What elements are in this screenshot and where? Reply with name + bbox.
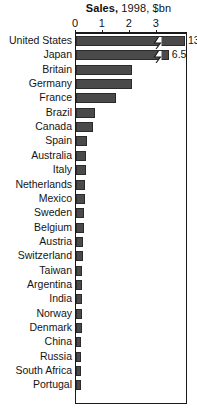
bar: [76, 323, 82, 333]
bar: [76, 366, 81, 376]
category-label: Sweden: [34, 206, 72, 219]
category-label: United States: [9, 34, 72, 47]
x-axis-tick-label: 2: [122, 17, 136, 29]
bar: [76, 294, 82, 304]
category-label: Denmark: [29, 321, 72, 334]
chart-row: Taiwan: [0, 264, 197, 278]
bar: [76, 165, 86, 175]
sales-bar-chart: Sales, 1998, $bn 0123 United States13.2J…: [0, 0, 197, 415]
category-label: China: [45, 335, 72, 348]
chart-row: China: [0, 335, 197, 349]
chart-row: Norway: [0, 307, 197, 321]
bar: [76, 337, 81, 347]
chart-row: Germany: [0, 77, 197, 91]
bar: [76, 50, 169, 60]
bar: [76, 251, 83, 261]
bar: [76, 136, 87, 146]
category-label: Australia: [31, 149, 72, 162]
bar: [76, 79, 132, 89]
category-label: Italy: [53, 163, 72, 176]
chart-row: Canada: [0, 120, 197, 134]
x-axis-tick-label: 0: [68, 17, 82, 29]
category-label: Canada: [35, 120, 72, 133]
chart-row: Russia: [0, 350, 197, 364]
chart-row: Denmark: [0, 321, 197, 335]
chart-row: Argentina: [0, 278, 197, 292]
category-label: Brazil: [46, 106, 72, 119]
category-label: Portugal: [33, 378, 72, 391]
chart-row: Japan6.5: [0, 48, 197, 62]
category-label: South Africa: [15, 364, 72, 377]
bar: [76, 65, 132, 75]
bar: [76, 108, 95, 118]
category-label: Netherlands: [15, 178, 72, 191]
bar: [76, 280, 82, 290]
chart-title: Sales, 1998, $bn: [60, 2, 197, 14]
category-label: Austria: [39, 235, 72, 248]
x-axis-tick-label: 3: [149, 17, 163, 29]
chart-row: South Africa: [0, 364, 197, 378]
category-label: France: [39, 91, 72, 104]
chart-row: India: [0, 292, 197, 306]
bar-rows: United States13.2Japan6.5BritainGermanyF…: [0, 34, 197, 404]
bar-value-label: 6.5: [172, 48, 187, 61]
chart-row: Belgium: [0, 221, 197, 235]
category-label: Argentina: [27, 278, 72, 291]
bar: [76, 380, 81, 390]
category-label: Spain: [45, 134, 72, 147]
bar: [76, 237, 83, 247]
chart-row: Britain: [0, 63, 197, 77]
bar: [76, 151, 86, 161]
chart-row: France: [0, 91, 197, 105]
chart-title-bold: Sales,: [86, 2, 118, 14]
category-label: Mexico: [39, 192, 72, 205]
category-label: Switzerland: [18, 249, 72, 262]
chart-row: Brazil: [0, 106, 197, 120]
chart-row: Switzerland: [0, 249, 197, 263]
chart-row: Spain: [0, 134, 197, 148]
x-axis-tick-label: 1: [95, 17, 109, 29]
bar: [76, 122, 93, 132]
bar: [76, 352, 81, 362]
chart-row: Australia: [0, 149, 197, 163]
category-label: Norway: [36, 307, 72, 320]
bar: [76, 194, 85, 204]
category-label: Taiwan: [39, 264, 72, 277]
chart-row: Sweden: [0, 206, 197, 220]
category-label: Russia: [40, 350, 72, 363]
bar: [76, 223, 84, 233]
bar-value-label: 13.2: [188, 34, 197, 47]
category-label: India: [49, 292, 72, 305]
bar: [76, 93, 116, 103]
chart-title-rest: 1998, $bn: [121, 2, 171, 14]
bar: [76, 36, 185, 46]
category-label: Japan: [43, 48, 72, 61]
bar: [76, 180, 85, 190]
chart-row: United States13.2: [0, 34, 197, 48]
bar: [76, 208, 84, 218]
bar: [76, 309, 82, 319]
category-label: Germany: [29, 77, 72, 90]
bar: [76, 266, 82, 276]
chart-row: Portugal: [0, 378, 197, 392]
category-label: Belgium: [34, 221, 72, 234]
chart-row: Italy: [0, 163, 197, 177]
chart-row: Mexico: [0, 192, 197, 206]
chart-row: Netherlands: [0, 178, 197, 192]
chart-row: Austria: [0, 235, 197, 249]
category-label: Britain: [42, 63, 72, 76]
